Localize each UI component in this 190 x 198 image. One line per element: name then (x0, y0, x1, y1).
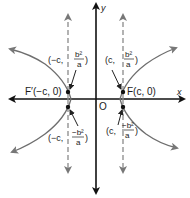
y-axis-label: y (100, 3, 106, 13)
focus-left-label: F′(−c, 0) (25, 86, 62, 97)
svg-text:): ) (85, 133, 88, 143)
pointer-upper-right (112, 70, 121, 89)
svg-text:a: a (126, 60, 131, 69)
svg-text:(c,: (c, (105, 55, 115, 65)
svg-text:(−c,: (−c, (48, 133, 63, 143)
pointer-lower-left (70, 110, 78, 126)
endpoint-dot-lower-left (66, 105, 70, 109)
endpoint-dot-upper-right (121, 90, 125, 94)
hyperbola-diagram: y x O F′(−c, 0) F(c, 0) (−c, b² a ) (c, … (0, 0, 190, 198)
svg-text:): ) (85, 55, 88, 65)
diagram-canvas: y x O F′(−c, 0) F(c, 0) (−c, b² a ) (c, … (0, 0, 190, 198)
svg-text:): ) (135, 126, 138, 136)
focus-right-label: F(c, 0) (127, 86, 156, 97)
pointer-upper-left (70, 70, 76, 89)
endpoint-label-upper-right: (c, b² a ) (105, 50, 138, 69)
svg-text:a: a (125, 131, 130, 140)
svg-text:a: a (76, 138, 81, 147)
endpoint-label-lower-left: (−c, −b² a ) (48, 128, 88, 147)
svg-text:−b²: −b² (72, 128, 84, 137)
svg-text:): ) (135, 55, 138, 65)
endpoint-dot-upper-left (66, 90, 70, 94)
svg-text:b²: b² (75, 50, 82, 59)
endpoint-dot-lower-right (121, 105, 125, 109)
svg-text:a: a (77, 60, 82, 69)
svg-text:(−c,: (−c, (48, 55, 63, 65)
origin-label: O (99, 101, 107, 112)
svg-text:(c,: (c, (106, 126, 116, 136)
svg-text:b²: b² (125, 50, 132, 59)
x-axis-label: x (176, 87, 182, 97)
endpoint-label-lower-right: (c, −b² a ) (106, 121, 138, 140)
svg-text:−b²: −b² (122, 121, 134, 130)
